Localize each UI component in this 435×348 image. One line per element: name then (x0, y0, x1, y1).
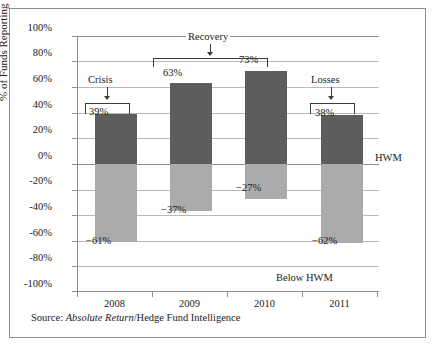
bar-above-hwm-2010[interactable] (245, 71, 287, 164)
y-tick-label-n20: -20% (8, 176, 52, 186)
annotation-recovery-bracket-icon (153, 58, 268, 67)
y-tick-label-80: 80% (8, 48, 52, 58)
annotation-recovery-label: Recovery (186, 31, 230, 42)
y-tick-label-n60: -60% (8, 228, 52, 238)
annotation-crisis-label: Crisis (86, 74, 115, 85)
source-prefix: Source: (31, 312, 66, 323)
bar-group-2010 (228, 36, 303, 292)
bar-above-hwm-2009[interactable] (170, 83, 212, 164)
x-tick-0 (77, 292, 78, 297)
source-publication: Absolute Return (66, 312, 134, 323)
x-tick-1 (152, 292, 153, 297)
y-tick-label-n40: -40% (8, 202, 52, 212)
value-label-below-2009: −37% (161, 204, 186, 215)
x-tick-label-2008: 2008 (77, 298, 152, 309)
annotation-recovery-arrow-icon (207, 52, 213, 56)
figure-frame: % of Funds Reporting 100% 80% 60% 40% 20… (9, 8, 426, 338)
value-label-below-2008: −61% (86, 235, 111, 246)
y-tick-label-40: 40% (8, 100, 52, 110)
value-label-below-2010: −27% (236, 182, 261, 193)
y-tick-label-n100: -100% (8, 279, 52, 289)
annotation-losses-label: Losses (309, 74, 342, 85)
bar-below-hwm-2011[interactable] (321, 164, 363, 243)
y-tick-label-100: 100% (8, 23, 52, 33)
value-label-below-2011: −62% (312, 235, 337, 246)
x-tick-label-2009: 2009 (152, 298, 227, 309)
x-tick-2 (227, 292, 228, 297)
x-tick-label-2011: 2011 (302, 298, 377, 309)
y-tick-label-n80: -80% (8, 253, 52, 263)
x-tick-label-2010: 2010 (227, 298, 302, 309)
figure: % of Funds Reporting 100% 80% 60% 40% 20… (0, 0, 435, 348)
y-tick-label-60: 60% (8, 74, 52, 84)
source-suffix: /Hedge Fund Intelligence (134, 312, 241, 323)
y-tick-label-0: 0% (8, 151, 52, 161)
value-label-above-2009: 63% (163, 67, 182, 78)
x-tick-3 (302, 292, 303, 297)
annotation-crisis-arrow-icon (104, 96, 110, 100)
bar-above-hwm-2011[interactable] (321, 115, 363, 164)
annotation-crisis-brace-icon (85, 103, 130, 114)
below-hwm-region-label: Below HWM (274, 272, 335, 283)
bar-above-hwm-2008[interactable] (95, 114, 137, 164)
annotation-losses-arrow-icon (328, 96, 334, 100)
bar-below-hwm-2008[interactable] (95, 164, 137, 242)
annotation-hwm-label: HWM (375, 152, 402, 163)
x-tick-4 (377, 292, 378, 297)
y-tick-label-20: 20% (8, 125, 52, 135)
source-note: Source: Absolute Return/Hedge Fund Intel… (31, 312, 240, 323)
annotation-losses-brace-icon (310, 103, 355, 114)
